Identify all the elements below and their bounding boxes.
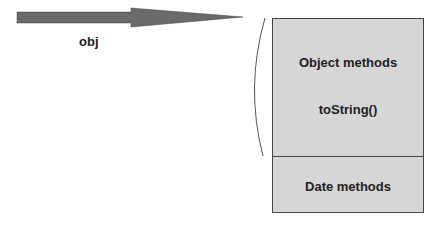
date-methods-label: Date methods: [273, 179, 423, 194]
object-box: Object methods toString() Date methods: [272, 18, 424, 213]
object-methods-label: Object methods: [273, 55, 423, 70]
arrow-icon: [17, 8, 243, 27]
arrow-label: obj: [79, 34, 99, 49]
tostring-label: toString(): [273, 102, 423, 117]
brace-arc: [254, 18, 265, 156]
section-divider: [273, 156, 423, 157]
